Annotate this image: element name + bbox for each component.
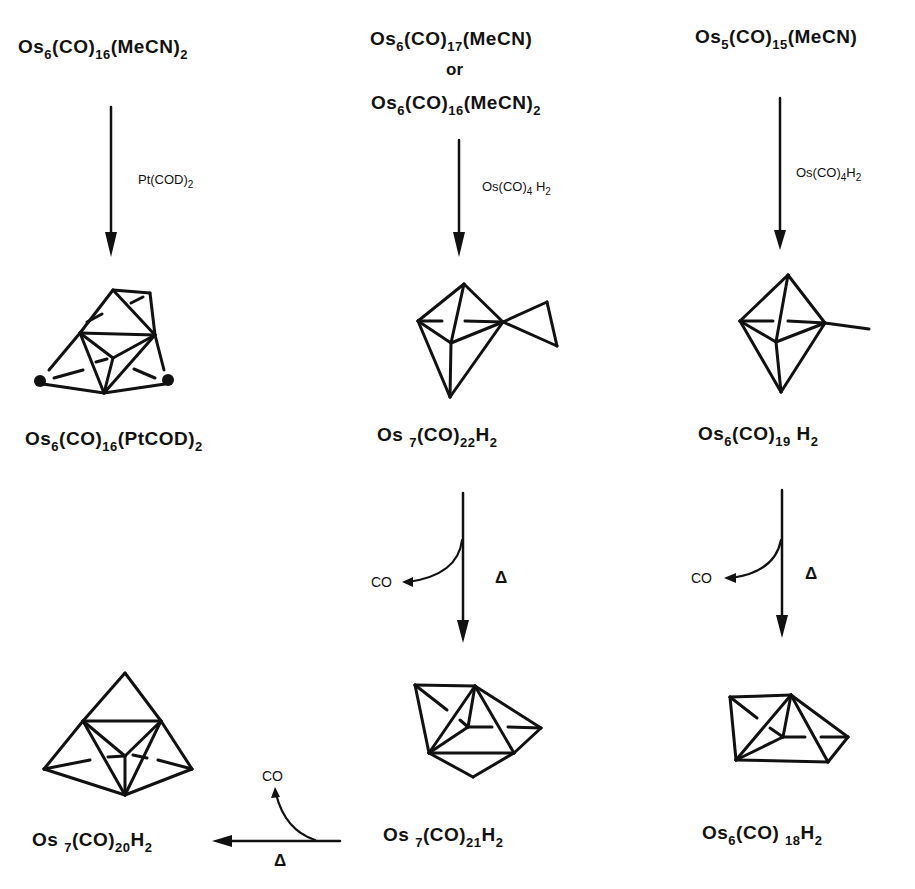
arrow-right-step2 (724, 490, 788, 638)
formula-bottom-left-product: Os 7(CO)20H2 (32, 829, 152, 851)
cluster-os6-co18 (730, 695, 848, 762)
reagent-pt-cod2: Pt(COD)2 (138, 172, 193, 187)
arrow-middle-step1 (453, 140, 465, 257)
formula-middle-start-alt: Os6(CO)16(MeCN)2 (371, 92, 541, 114)
cluster-os6-ptcod2 (34, 290, 174, 393)
heat-symbol-right: Δ (805, 564, 817, 584)
byproduct-co-bottom: CO (262, 768, 283, 784)
heat-symbol-middle: Δ (495, 568, 507, 588)
pt-atom-left (34, 375, 46, 387)
reagent-os-co4-h2-middle: Os(CO)4 H2 (482, 179, 551, 194)
cluster-os7-co22 (418, 284, 557, 397)
cluster-os7-co20 (44, 673, 192, 795)
formula-middle-product2: Os 7(CO)21H2 (383, 824, 503, 846)
arrow-left-step1 (105, 107, 117, 257)
heat-symbol-bottom: Δ (274, 851, 286, 871)
reagent-os-co4-h2-right: Os(CO)4H2 (796, 165, 861, 180)
formula-middle-product: Os 7(CO)22H2 (377, 424, 497, 446)
formula-left-product: Os6(CO)16(PtCOD)2 (25, 428, 203, 450)
formula-right-start: Os5(CO)15(MeCN) (695, 26, 857, 48)
byproduct-co-middle: CO (371, 574, 392, 590)
cluster-os6-co19 (740, 275, 869, 392)
arrow-bottom-step (212, 787, 340, 847)
cluster-os7-co21 (415, 685, 541, 777)
formula-middle-start: Os6(CO)17(MeCN) (370, 28, 532, 50)
formula-right-product: Os6(CO)19 H2 (698, 423, 818, 445)
formula-right-product2: Os6(CO) 18H2 (702, 822, 822, 844)
byproduct-co-right: CO (691, 570, 712, 586)
or-label: or (446, 60, 463, 80)
arrow-right-step1 (774, 98, 786, 250)
pt-atom-right (162, 374, 174, 386)
arrow-middle-step2 (402, 493, 469, 643)
formula-left-start: Os6(CO)16(MeCN)2 (18, 36, 188, 58)
